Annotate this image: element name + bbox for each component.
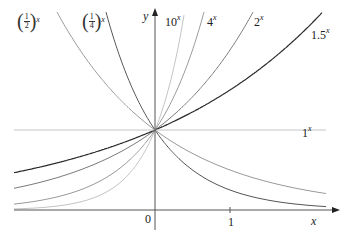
curve-four	[14, 12, 204, 204]
label-quarter-power-x: (14)x	[82, 11, 105, 31]
label-one-power-x: 1x	[302, 125, 312, 139]
y-axis-arrow-icon	[152, 8, 158, 16]
curve-half	[57, 12, 326, 193]
x-axis-label: x	[311, 215, 316, 227]
label-four-power-x: 4x	[207, 14, 217, 28]
exponential-plot	[0, 0, 344, 243]
curve-one-point-five	[14, 13, 322, 173]
label-ten-power-x: 10x	[165, 14, 181, 28]
label-one-point-five-power-x: 1.5x	[311, 27, 330, 41]
x-axis-arrow-icon	[332, 207, 340, 213]
curve-two	[14, 12, 253, 188]
y-axis-label: y	[143, 10, 148, 22]
label-two-power-x: 2x	[254, 14, 264, 28]
curve-ten	[14, 15, 184, 209]
curves-group	[14, 12, 326, 209]
origin-label: 0	[145, 213, 151, 225]
x-tick-label: 1	[228, 216, 234, 228]
label-half-power-x: (12)x	[17, 11, 40, 31]
